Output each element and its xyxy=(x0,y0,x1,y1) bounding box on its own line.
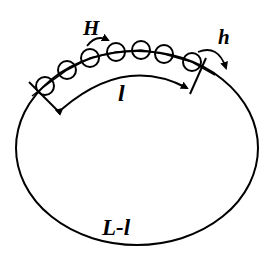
label-l: l xyxy=(118,80,125,106)
label-L-minus-l: L-l xyxy=(101,215,131,240)
ring-diagram: H h l L-l xyxy=(0,0,277,261)
label-H: H xyxy=(82,16,100,40)
label-h: h xyxy=(218,25,230,49)
